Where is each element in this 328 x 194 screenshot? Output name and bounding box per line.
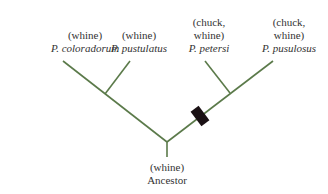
branch-pustulatus (105, 61, 130, 94)
taxon-petersi: (chuck, whine) P. petersi (176, 16, 242, 55)
call-label-line2: whine) (250, 29, 328, 42)
taxon-pustulatus: (whine) P. pustulatus (100, 29, 178, 55)
ancestor-name: Ancestor (127, 174, 207, 187)
species-name: P. pustulatus (100, 42, 178, 55)
call-label-line1: (chuck, (250, 16, 328, 29)
call-label: (whine) (127, 161, 207, 174)
taxon-pusulosus: (chuck, whine) P. pusulosus (250, 16, 328, 55)
species-name: P. pusulosus (250, 42, 328, 55)
call-label-line2: whine) (176, 29, 242, 42)
species-name: P. petersi (176, 42, 242, 55)
branch-petersi (205, 61, 230, 93)
branch-pusulosus (167, 61, 273, 142)
trait-change-marker (191, 106, 210, 126)
call-label: (whine) (100, 29, 178, 42)
call-label-line1: (chuck, (176, 16, 242, 29)
root-ancestor: (whine) Ancestor (127, 161, 207, 187)
branch-coloradorum (63, 61, 167, 142)
